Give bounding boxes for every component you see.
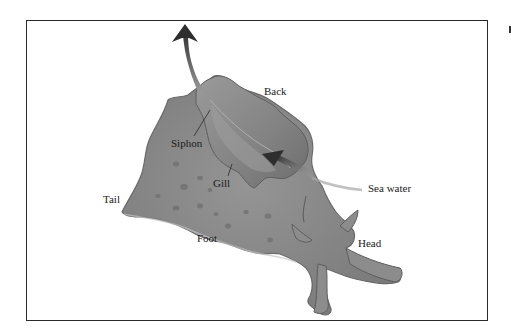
label-gill: Gill [213,178,230,189]
label-foot: Foot [197,233,217,244]
label-back: Back [264,86,287,97]
label-sea-water: Sea water [368,183,411,194]
label-siphon: Siphon [171,138,202,149]
aplysia-illustration [0,0,511,335]
label-head: Head [358,238,381,249]
label-tail: Tail [103,194,120,205]
outflow-arrow-icon [172,24,204,92]
